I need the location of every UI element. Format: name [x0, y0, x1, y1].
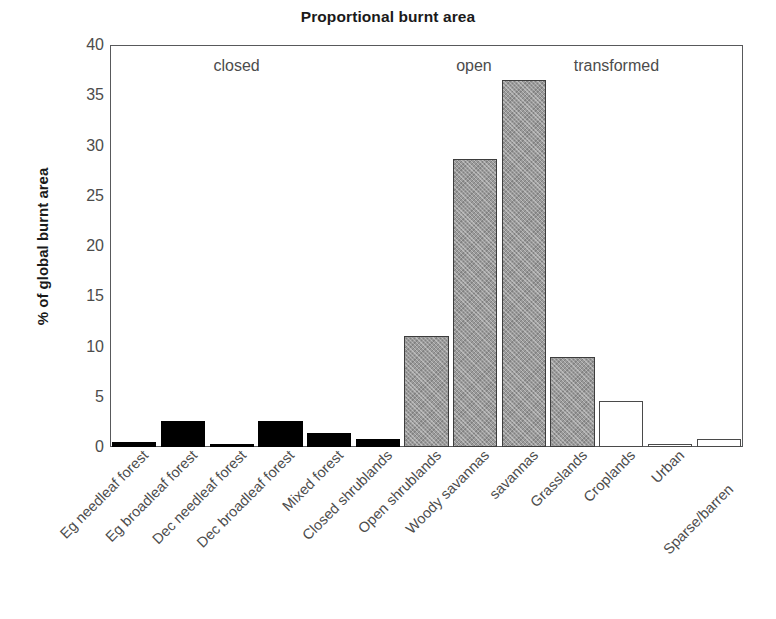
x-tick-label-open-shrublands: Open shrublands: [354, 447, 443, 536]
y-tick-label-5: 5: [64, 389, 104, 405]
bar-croplands: [599, 401, 643, 447]
x-tick-label-urban: Urban: [648, 447, 687, 486]
bar-sparse-barren: [697, 439, 741, 447]
y-tick-label-35: 35: [64, 87, 104, 103]
section-label-transformed: transformed: [574, 57, 659, 75]
y-axis-title: % of global burnt area: [34, 87, 51, 407]
x-tick-label-closed-shrublands: Closed shrublands: [299, 447, 395, 543]
bar-closed-shrublands: [356, 439, 400, 447]
y-tick-label-15: 15: [64, 288, 104, 304]
y-tick-label-0: 0: [64, 439, 104, 455]
x-tick-label-eg-broadleaf-forest: Eg broadleaf forest: [102, 447, 200, 545]
bar-savannas: [502, 80, 546, 447]
x-tick-label-croplands: Croplands: [581, 447, 639, 505]
bar-eg-broadleaf-forest: [161, 421, 205, 447]
x-tick-label-sparse-barren: Sparse/barren: [660, 481, 736, 557]
bar-mixed-forest: [307, 433, 351, 447]
bar-open-shrublands: [404, 336, 448, 447]
x-tick-label-eg-needleaf-forest: Eg needleaf forest: [57, 447, 152, 542]
y-tick-label-25: 25: [64, 188, 104, 204]
bar-series: [110, 45, 743, 447]
y-tick-label-40: 40: [64, 37, 104, 53]
chart-title: Proportional burnt area: [0, 8, 776, 26]
bar-woody-savannas: [453, 159, 497, 447]
bar-dec-broadleaf-forest: [258, 421, 302, 447]
x-axis-tick-labels: Eg needleaf forestEg broadleaf forestDec…: [110, 447, 743, 619]
y-tick-label-30: 30: [64, 138, 104, 154]
section-label-closed: closed: [213, 57, 259, 75]
y-tick-label-20: 20: [64, 238, 104, 254]
x-tick-label-woody-savannas: Woody savannas: [403, 447, 493, 537]
y-axis-tick-labels: 0510152025303540: [58, 45, 104, 447]
y-tick-label-10: 10: [64, 339, 104, 355]
bar-grasslands: [550, 357, 594, 447]
section-label-open: open: [456, 57, 492, 75]
